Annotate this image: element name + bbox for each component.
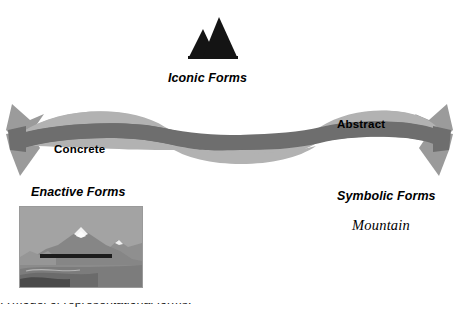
concrete-label: Concrete (54, 144, 105, 156)
enactive-forms-label: Enactive Forms (31, 186, 126, 199)
twisted-ribbon (0, 100, 459, 182)
symbolic-forms-label: Symbolic Forms (337, 190, 436, 203)
mountain-peaks-icon (186, 13, 240, 61)
mountain-landscape-photo (19, 206, 143, 288)
bottom-caption-text: A model of representational forms. (1, 303, 191, 307)
diagram-canvas: Iconic Forms (0, 0, 459, 310)
abstract-label: Abstract (337, 119, 385, 131)
symbolic-word: Mountain (352, 218, 410, 233)
iconic-forms-label: Iconic Forms (168, 72, 247, 85)
bottom-caption: A model of representational forms. (0, 303, 459, 310)
